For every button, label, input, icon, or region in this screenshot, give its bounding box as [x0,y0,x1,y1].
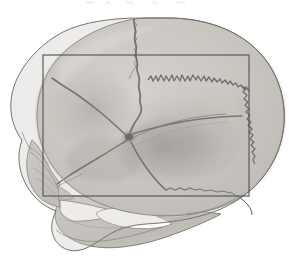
skull-figure-container: Lateral view of human skull with rectang… [0,0,304,259]
skull-illustration [0,0,304,259]
